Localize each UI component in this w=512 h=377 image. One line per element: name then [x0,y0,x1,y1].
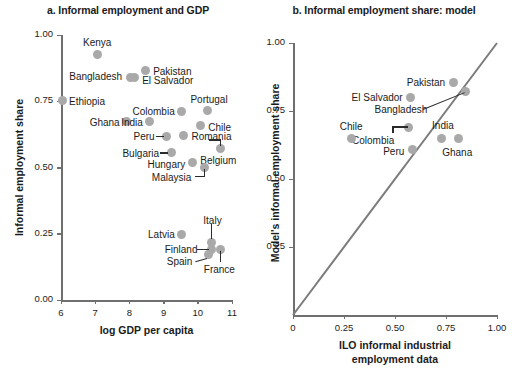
y-axis-tick [289,179,293,181]
data-point [196,121,205,130]
y-axis-line [61,35,63,300]
x-axis-tick [232,300,234,304]
reference-line-45-degree [292,42,498,315]
y-axis-tick [289,111,293,113]
label-leader-line [220,251,221,262]
x-axis-title: log GDP per capita [41,324,252,336]
data-point-label: Ghana [442,146,472,157]
data-point-label: Spain [167,255,193,266]
data-point [177,107,186,116]
x-axis-tick-label: 11 [212,307,252,318]
y-axis-tick-label: 0.00 [0,293,53,304]
data-point [145,117,154,126]
data-point-label: El Salvador [142,74,193,85]
x-axis-tick [344,315,346,319]
data-point [449,78,458,87]
data-point [93,50,102,59]
label-leader-line [209,139,220,140]
data-point-label: Chile [340,121,363,132]
data-point [437,134,446,143]
data-point-label: Pakistan [407,77,445,88]
x-axis-tick-label: 0 [273,322,313,333]
x-axis-tick [497,315,499,319]
x-axis-tick [293,315,295,319]
x-axis-tick [163,300,165,304]
y-axis-tick [57,167,61,169]
x-axis-tick-label: 0.50 [375,322,415,333]
data-point [130,73,139,82]
panel-a-informal-employment-gdp: a. Informal employment and GDP 0.000.250… [0,0,256,377]
data-point-label: Italy [203,215,221,226]
label-leader-line [195,176,204,177]
data-point-label: El Salvador [352,92,403,103]
data-point-label: Peru [383,145,404,156]
label-leader-line [160,152,168,153]
y-axis-tick [289,43,293,45]
data-point-label: Peru [134,131,155,142]
y-axis-tick [57,233,61,235]
data-point-label: Ghana [90,116,120,127]
data-point-label: Ethiopia [69,95,105,106]
y-axis-title: Informal employment share [13,35,25,300]
data-point-label: Bangladesh [69,71,122,82]
data-point [188,158,197,167]
x-axis-tick [129,300,131,304]
y-axis-tick-label: 0.50 [0,161,53,172]
x-axis-tick [395,315,397,319]
data-point [179,131,188,140]
data-point [347,134,356,143]
x-axis-tick [95,300,97,304]
panel-a-plot-area: 0.000.250.500.751.0067891011log GDP per … [0,0,256,377]
x-axis-tick-label: 0.25 [324,322,364,333]
data-point [58,96,67,105]
x-axis-tick-label: 1.00 [477,322,512,333]
data-point-label: Malaysia [152,171,191,182]
y-axis-tick-label: 0.25 [0,227,53,238]
data-point [177,230,186,239]
label-leader-line [392,126,393,133]
x-axis-tick [197,300,199,304]
data-point-label: Finland [165,244,198,255]
data-point-label: Colombia [132,106,174,117]
data-point [406,93,415,102]
panel-b-plot-area: 0.250.500.751.0000.250.500.751.00ILO inf… [256,0,512,377]
y-axis-tick-label: 0.75 [0,94,53,105]
data-point-label: Bangladesh [375,103,428,114]
x-axis-tick [446,315,448,319]
y-axis-tick [289,247,293,249]
data-point [408,145,417,154]
data-point-label: India [432,119,454,130]
x-axis-title: ILO informal industrial [273,339,512,351]
y-axis-line [293,43,295,315]
x-axis-tick-label: 0.75 [426,322,466,333]
data-point-label: Bulgaria [122,147,159,158]
x-axis-title-line2: employment data [273,353,512,365]
x-axis-line [61,300,232,302]
y-axis-tick [57,35,61,37]
label-leader-line [392,126,408,127]
label-leader-line [211,224,212,239]
data-point-label: India [121,116,143,127]
panel-b-informal-employment-model: b. Informal employment share: model 0.25… [256,0,512,377]
data-point [454,134,463,143]
figure-root: a. Informal employment and GDP 0.000.250… [0,0,512,377]
y-axis-title: Model's informal employment share [269,37,281,309]
data-point-label: France [204,264,235,275]
x-axis-tick [61,300,63,304]
data-point-label: Latvia [148,229,175,240]
data-point-label: Portugal [190,93,227,104]
label-leader-line [196,258,208,263]
label-leader-line [423,92,465,110]
data-point-label: Hungary [148,158,186,169]
y-axis-tick-label: 1.00 [0,28,53,39]
data-point-label: Kenya [83,36,111,47]
label-leader-line [156,136,164,137]
data-point [203,106,212,115]
